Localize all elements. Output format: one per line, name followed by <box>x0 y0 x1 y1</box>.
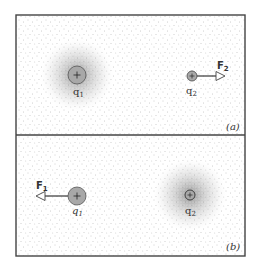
charge-q2 <box>187 71 197 81</box>
panel-b-caption: (b) <box>226 241 240 252</box>
charge-q2 <box>185 190 195 200</box>
panel-b: F1 q1 q2 (b) <box>16 135 245 256</box>
charge-q1 <box>68 66 86 84</box>
panel-a-caption: (a) <box>226 121 240 132</box>
panel-a: q1 q2 F2 (a) <box>16 15 245 135</box>
coulomb-diagram: q1 q2 F2 (a) F1 q1 <box>0 0 256 267</box>
charge-q1 <box>68 187 86 205</box>
